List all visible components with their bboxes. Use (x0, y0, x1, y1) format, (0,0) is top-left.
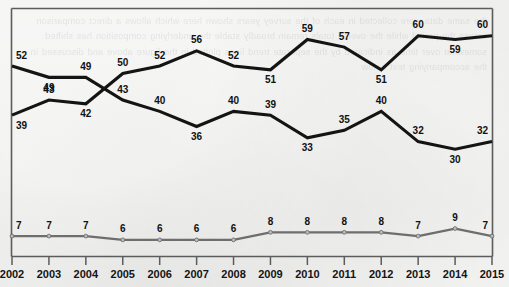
x-axis-tick-label: 2006 (147, 268, 171, 280)
data-point-label: 7 (482, 220, 488, 231)
data-point-label: 40 (376, 95, 388, 106)
data-point-label: 52 (154, 50, 166, 61)
data-point-label: 43 (43, 84, 55, 95)
data-point-marker (158, 238, 162, 242)
data-point-label: 8 (305, 216, 311, 227)
data-point-label: 7 (415, 220, 421, 231)
data-point-marker (47, 234, 51, 238)
data-point-label: 39 (265, 99, 277, 110)
data-point-label: 40 (228, 95, 240, 106)
data-point-marker (121, 238, 125, 242)
data-point-label: 59 (302, 23, 314, 34)
data-labels-layer: 5249494340364039333540323032394342505256… (16, 19, 488, 234)
data-point-label: 39 (16, 120, 28, 131)
data-point-label: 6 (157, 223, 163, 234)
data-point-label: 42 (80, 108, 92, 119)
x-axis-tick-label: 2002 (0, 268, 24, 280)
x-axis-tick-label: 2008 (221, 268, 245, 280)
x-axis-tick-label: 2005 (111, 268, 135, 280)
data-point-marker (269, 230, 273, 234)
data-point-label: 32 (413, 125, 425, 136)
data-point-label: 8 (268, 216, 274, 227)
data-point-label: 40 (154, 95, 166, 106)
x-axis-tick-label: 2015 (480, 268, 504, 280)
data-point-label: 7 (46, 220, 52, 231)
data-point-label: 52 (228, 50, 240, 61)
x-axis-tick-label: 2003 (37, 268, 61, 280)
x-axis-labels: 2002200320042005200620072008200920102011… (0, 268, 504, 280)
data-point-marker (342, 230, 346, 234)
data-point-label: 51 (376, 74, 388, 85)
data-point-label: 35 (339, 114, 351, 125)
data-point-label: 36 (191, 131, 203, 142)
data-point-marker (490, 234, 494, 238)
x-axis-ticks (12, 257, 492, 266)
data-point-label: 8 (378, 216, 384, 227)
x-axis-tick-label: 2007 (184, 268, 208, 280)
data-point-label: 32 (477, 125, 489, 136)
data-point-label: 8 (342, 216, 348, 227)
data-point-label: 43 (117, 84, 129, 95)
data-point-label: 9 (452, 212, 458, 223)
line-chart: 2002200320042005200620072008200920102011… (0, 0, 509, 287)
data-point-marker (453, 227, 457, 231)
x-axis-tick-label: 2012 (369, 268, 393, 280)
data-point-label: 49 (80, 61, 92, 72)
data-point-label: 33 (302, 142, 314, 153)
data-point-marker (10, 234, 14, 238)
data-point-label: 7 (83, 220, 89, 231)
data-point-marker (379, 230, 383, 234)
data-point-label: 6 (231, 223, 237, 234)
data-point-marker (416, 234, 420, 238)
data-point-label: 52 (16, 50, 28, 61)
data-point-marker (232, 238, 236, 242)
data-point-label: 6 (120, 223, 126, 234)
data-point-marker (195, 238, 199, 242)
data-point-label: 60 (413, 19, 425, 30)
data-point-label: 50 (117, 57, 129, 68)
data-point-label: 56 (191, 34, 203, 45)
x-axis-tick-label: 2004 (74, 268, 99, 280)
data-point-label: 57 (339, 31, 351, 42)
x-axis-tick-label: 2014 (443, 268, 468, 280)
data-point-marker (84, 234, 88, 238)
data-point-label: 51 (265, 74, 277, 85)
x-axis-tick-label: 2010 (295, 268, 319, 280)
x-axis-tick-label: 2011 (332, 268, 356, 280)
data-point-marker (305, 230, 309, 234)
data-point-label: 59 (450, 44, 462, 55)
x-axis-tick-label: 2013 (406, 268, 430, 280)
data-point-label: 30 (450, 154, 462, 165)
data-point-label: 60 (477, 19, 489, 30)
data-point-label: 6 (194, 223, 200, 234)
x-axis-tick-label: 2009 (258, 268, 282, 280)
series-line-series-lower (12, 36, 492, 115)
data-point-label: 7 (16, 220, 22, 231)
